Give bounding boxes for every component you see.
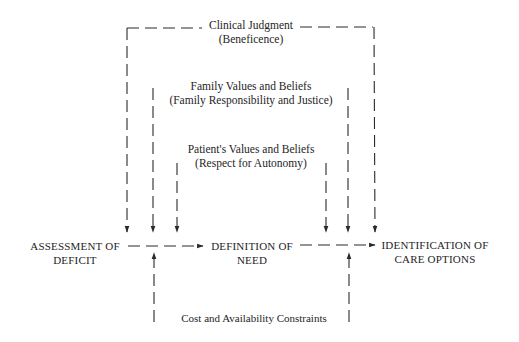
- clinical-right-line: [374, 27, 375, 232]
- patient-values-principle: (Respect for Autonomy): [180, 156, 322, 170]
- family-values-principle: (Family Responsibility and Justice): [160, 93, 342, 107]
- connector-lines: [0, 0, 519, 342]
- step-definition-of-need: DEFINITION OF NEED: [206, 239, 298, 267]
- step-definition-line1: DEFINITION OF: [206, 239, 298, 253]
- step-identification-line2: CARE OPTIONS: [377, 252, 493, 266]
- step-definition-line2: NEED: [206, 253, 298, 267]
- step-assessment-of-deficit: ASSESSMENT OF DEFICIT: [26, 239, 124, 267]
- clinical-judgment-title: Clinical Judgment: [200, 18, 302, 32]
- clinical-judgment-principle: (Beneficence): [200, 32, 302, 46]
- constraints-title: Cost and Availability Constraints: [170, 311, 338, 325]
- family-values-label: Family Values and Beliefs (Family Respon…: [160, 79, 342, 107]
- patient-values-label: Patient's Values and Beliefs (Respect fo…: [180, 142, 322, 170]
- clinical-judgment-label: Clinical Judgment (Beneficence): [200, 18, 302, 46]
- cost-availability-constraints-label: Cost and Availability Constraints: [170, 311, 338, 325]
- step-identification-line1: IDENTIFICATION OF: [377, 238, 493, 252]
- step-assessment-line1: ASSESSMENT OF: [26, 239, 124, 253]
- care-decision-diagram: Clinical Judgment (Beneficence) Family V…: [0, 0, 519, 342]
- step-assessment-line2: DEFICIT: [26, 253, 124, 267]
- family-values-title: Family Values and Beliefs: [160, 79, 342, 93]
- step-identification-of-care-options: IDENTIFICATION OF CARE OPTIONS: [377, 238, 493, 266]
- patient-values-title: Patient's Values and Beliefs: [180, 142, 322, 156]
